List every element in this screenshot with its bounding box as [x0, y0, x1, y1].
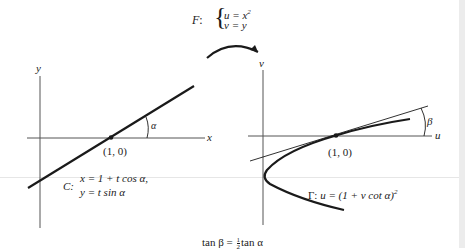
left-angle-arc [146, 117, 148, 138]
mapping-eq2: v = y [224, 19, 247, 31]
mapping-arrow [207, 46, 258, 58]
mapping-name: F: [192, 14, 203, 26]
left-x-axis-label: x [207, 131, 212, 143]
right-curve-gamma-label: Γ: u = (1 + v cot α)2 [308, 186, 397, 201]
right-angle-label: β [427, 115, 432, 127]
right-point-1-0 [334, 133, 339, 138]
left-point-label: (1, 0) [103, 145, 127, 157]
left-curve-eq2: y = t sin α [80, 186, 125, 198]
left-angle-label: α [151, 120, 156, 132]
left-point-1-0 [109, 135, 114, 140]
right-point-label: (1, 0) [328, 146, 352, 158]
caption-fraction: 12 [237, 237, 241, 250]
right-angle-arc [421, 108, 425, 136]
right-u-axis-label: u [435, 129, 441, 141]
caption-formula: tan β = 12tan α [202, 236, 263, 250]
left-curve-eq1: x = 1 + t cos α, [80, 172, 148, 184]
left-curve-name: C: [63, 180, 74, 192]
right-v-axis-label: v [259, 57, 264, 69]
left-y-axis-label: y [36, 62, 41, 74]
